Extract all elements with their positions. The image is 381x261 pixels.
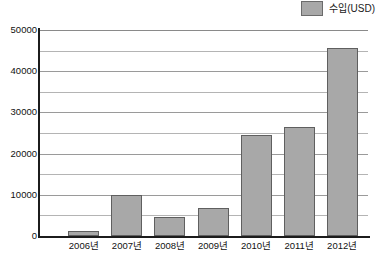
bar bbox=[198, 208, 229, 236]
y-axis-line bbox=[38, 28, 40, 238]
x-axis-tick-label: 2006년 bbox=[69, 240, 99, 251]
x-axis-tick-label: 2009년 bbox=[198, 240, 228, 251]
y-axis-tick-label: 50000 bbox=[1, 25, 37, 35]
y-axis-tick-label: 20000 bbox=[1, 149, 37, 159]
y-axis-tick-label: 40000 bbox=[1, 66, 37, 76]
y-axis-tick-label: 30000 bbox=[1, 108, 37, 118]
bar bbox=[327, 48, 358, 236]
x-axis-tick-label: 2008년 bbox=[155, 240, 185, 251]
bar bbox=[154, 217, 185, 236]
x-axis-line bbox=[38, 236, 370, 238]
chart-legend: 수입(USD) bbox=[301, 1, 375, 16]
bar-chart: 수입(USD) 01000020000300004000050000 2006년… bbox=[0, 0, 381, 261]
plot-area bbox=[40, 30, 368, 236]
bar bbox=[284, 127, 315, 236]
bars-layer bbox=[40, 30, 368, 236]
x-axis-tick-label: 2007년 bbox=[112, 240, 142, 251]
y-axis-labels: 01000020000300004000050000 bbox=[0, 0, 37, 261]
x-axis-labels: 2006년2007년2008년2009년2010년2011년2012년 bbox=[40, 240, 368, 256]
bar bbox=[111, 195, 142, 236]
bar bbox=[241, 135, 272, 236]
legend-swatch-icon bbox=[301, 1, 323, 16]
legend-label: 수입(USD) bbox=[329, 4, 375, 14]
y-axis-tick-label: 10000 bbox=[1, 190, 37, 200]
x-axis-tick-label: 2011년 bbox=[284, 240, 313, 251]
x-axis-tick-label: 2010년 bbox=[241, 240, 271, 251]
y-axis-tick-label: 0 bbox=[1, 231, 37, 241]
x-axis-tick-label: 2012년 bbox=[327, 240, 357, 251]
